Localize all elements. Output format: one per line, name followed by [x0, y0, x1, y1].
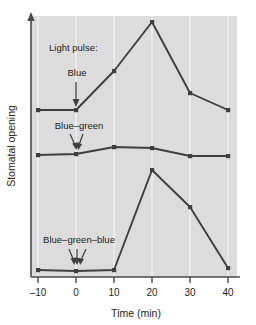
x-tick-labels: –10 0 10 20 30 40 [30, 287, 234, 298]
data-point [112, 69, 116, 73]
data-point [150, 20, 154, 24]
x-tick-label-10: 10 [108, 287, 120, 298]
x-axis-title: Time (min) [111, 307, 161, 319]
data-point [112, 268, 116, 272]
data-point [226, 108, 230, 112]
annotation-blue-green-blue-label: Blue–green–blue [43, 234, 115, 245]
data-point [226, 154, 230, 158]
data-point [150, 146, 154, 150]
data-point [36, 108, 40, 112]
stomatal-opening-line-chart: –10 0 10 20 30 40 Time (min) Stomatal op… [0, 0, 256, 325]
x-tick-label-20: 20 [146, 287, 158, 298]
data-point [74, 152, 78, 156]
data-point [112, 145, 116, 149]
x-tick-label-40: 40 [222, 287, 234, 298]
data-point [150, 168, 154, 172]
data-point [74, 269, 78, 273]
annotation-light-pulse-heading: Light pulse: [49, 42, 98, 53]
data-point [188, 154, 192, 158]
annotation-blue-label: Blue [67, 67, 86, 78]
x-axis-ticks [38, 277, 228, 283]
data-point [74, 108, 78, 112]
x-tick-label-30: 30 [184, 287, 196, 298]
data-point [36, 268, 40, 272]
y-axis-title: Stomatal opening [5, 105, 17, 187]
x-tick-label-0: 0 [73, 287, 79, 298]
data-point [36, 153, 40, 157]
data-point [188, 205, 192, 209]
annotation-blue-green-label: Blue–green [55, 120, 104, 131]
data-point [226, 266, 230, 270]
x-tick-label-minus10: –10 [30, 287, 47, 298]
data-point [188, 91, 192, 95]
chart-figure: –10 0 10 20 30 40 Time (min) Stomatal op… [0, 0, 256, 325]
x-axis [31, 277, 240, 283]
